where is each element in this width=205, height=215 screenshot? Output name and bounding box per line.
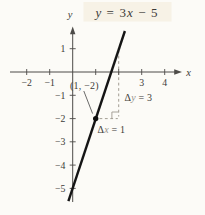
y-tick-label-neg4: −4 [55, 160, 66, 171]
x-tick-label-4: 4 [162, 77, 167, 88]
point-coordinates-label: (1, −2) [70, 80, 99, 92]
y-tick-label-neg1: −1 [55, 90, 66, 101]
delta-x-label: Δx = 1 [98, 124, 126, 135]
x-axis-label: x [185, 67, 191, 78]
point-leader-line [84, 91, 93, 114]
y-axis-label: y [67, 9, 73, 20]
delta-y-label: Δy = 3 [125, 92, 153, 103]
y-tick-label-1: 1 [61, 43, 66, 54]
y-axis-arrow-icon [70, 27, 75, 35]
graph-canvas: y = 3x − 5 x y −2 −1 3 4 1 −1 [0, 0, 205, 215]
marked-point-group: (1, −2) [70, 80, 99, 122]
y-tick-label-neg3: −3 [55, 136, 66, 147]
y-tick-labels: 1 −1 −2 −3 −4 −5 [55, 43, 66, 194]
x-axis-arrow-icon [174, 69, 182, 75]
x-tick-label-neg1: −1 [44, 77, 55, 88]
point-marker-dot [93, 116, 98, 121]
y-tick-label-neg2: −2 [55, 113, 66, 124]
y-tick-label-neg5: −5 [55, 183, 66, 194]
delta-annotations: Δy = 3 Δx = 1 [98, 92, 153, 135]
x-tick-label-neg2: −2 [21, 77, 32, 88]
equation-title: y = 3x − 5 [84, 2, 172, 22]
equation-title-text: y = 3x − 5 [93, 5, 158, 20]
line-graph-figure: y = 3x − 5 x y −2 −1 3 4 1 −1 [0, 0, 205, 215]
right-angle-marker [112, 112, 119, 119]
x-tick-label-3: 3 [139, 77, 144, 88]
